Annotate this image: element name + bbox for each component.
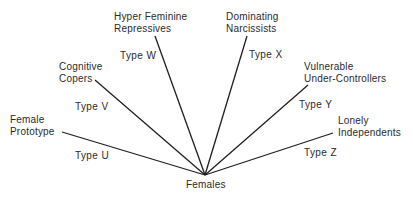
branch-name-y-line1: Vulnerable <box>304 61 386 73</box>
branch-line-y <box>205 85 308 175</box>
branch-name-u-line2: Prototype <box>10 126 55 138</box>
branch-name-x-line1: Dominating <box>226 11 279 23</box>
branch-line-x <box>205 36 247 175</box>
type-label-v: Type V <box>75 101 109 113</box>
type-label-y: Type Y <box>299 99 332 111</box>
root-label: Females <box>186 179 226 191</box>
branch-name-u-line1: Female <box>10 114 55 126</box>
branch-name-z: Lonely Independents <box>338 115 401 139</box>
branch-name-x-line2: Narcissists <box>226 23 279 35</box>
branch-name-z-line2: Independents <box>338 127 401 139</box>
branch-name-v-line2: Copers <box>59 73 103 85</box>
type-label-z: Type Z <box>304 147 337 159</box>
type-label-w: Type W <box>120 50 156 62</box>
type-label-u: Type U <box>75 150 109 162</box>
branch-name-w-line2: Repressives <box>114 23 187 35</box>
branch-name-w-line1: Hyper Feminine <box>114 11 187 23</box>
branch-name-z-line1: Lonely <box>338 115 401 127</box>
branch-name-w: Hyper Feminine Repressives <box>114 11 187 35</box>
branch-name-v-line1: Cognitive <box>59 61 103 73</box>
branch-name-y: Vulnerable Under-Controllers <box>304 61 386 85</box>
branch-name-y-line2: Under-Controllers <box>304 73 386 85</box>
branch-name-u: Female Prototype <box>10 114 55 138</box>
branch-name-v: Cognitive Copers <box>59 61 103 85</box>
type-label-x: Type X <box>249 49 283 61</box>
diagram-canvas <box>0 0 413 200</box>
branch-name-x: Dominating Narcissists <box>226 11 279 35</box>
